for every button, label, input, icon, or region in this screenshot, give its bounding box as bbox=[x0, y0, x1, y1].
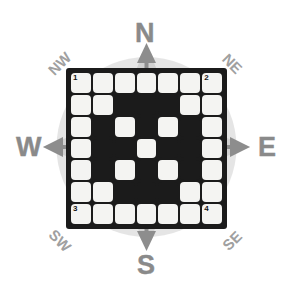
grid-cell[interactable] bbox=[71, 160, 91, 180]
grid-cell[interactable] bbox=[71, 139, 91, 159]
grid-cell[interactable] bbox=[137, 117, 157, 137]
grid-cell[interactable] bbox=[115, 117, 135, 137]
grid-cell[interactable] bbox=[202, 117, 222, 137]
grid-cell[interactable] bbox=[180, 204, 200, 224]
grid-cell[interactable] bbox=[180, 160, 200, 180]
grid-cell[interactable] bbox=[93, 204, 113, 224]
grid-cell[interactable] bbox=[137, 73, 157, 93]
grid-cell[interactable] bbox=[180, 73, 200, 93]
grid-corner-number: 4 bbox=[204, 204, 208, 214]
grid-corner-number: 1 bbox=[73, 73, 77, 83]
compass-label-west: W bbox=[16, 134, 41, 161]
grid-cell[interactable] bbox=[180, 117, 200, 137]
grid-cell[interactable]: 1 bbox=[71, 73, 91, 93]
grid-cell[interactable] bbox=[158, 95, 178, 115]
grid-cell[interactable] bbox=[202, 160, 222, 180]
compass-label-east: E bbox=[258, 134, 276, 161]
puzzle-grid: 1234 bbox=[66, 68, 227, 229]
grid-cell[interactable] bbox=[158, 182, 178, 202]
grid-cell[interactable] bbox=[115, 139, 135, 159]
grid-cell[interactable] bbox=[71, 95, 91, 115]
compass-label-north: N bbox=[135, 20, 155, 47]
grid-cell[interactable] bbox=[137, 139, 157, 159]
grid-cell[interactable] bbox=[115, 160, 135, 180]
grid-cell[interactable] bbox=[202, 182, 222, 202]
grid-cell[interactable] bbox=[180, 95, 200, 115]
grid-corner-number: 3 bbox=[73, 204, 77, 214]
grid-cell[interactable] bbox=[158, 204, 178, 224]
grid-cell[interactable] bbox=[158, 160, 178, 180]
grid-cell[interactable] bbox=[202, 95, 222, 115]
grid-cell[interactable]: 3 bbox=[71, 204, 91, 224]
grid-cell[interactable] bbox=[93, 139, 113, 159]
grid-cell[interactable] bbox=[93, 160, 113, 180]
grid-cell[interactable] bbox=[71, 182, 91, 202]
grid-cell[interactable] bbox=[137, 204, 157, 224]
grid-cell[interactable] bbox=[137, 160, 157, 180]
grid-cell[interactable] bbox=[202, 139, 222, 159]
grid-cell[interactable] bbox=[71, 117, 91, 137]
grid-cell[interactable] bbox=[158, 73, 178, 93]
grid-cell[interactable]: 4 bbox=[202, 204, 222, 224]
grid-cell[interactable] bbox=[115, 95, 135, 115]
grid-cell[interactable] bbox=[137, 182, 157, 202]
grid-cell[interactable] bbox=[93, 117, 113, 137]
grid-cell[interactable] bbox=[137, 95, 157, 115]
grid-cell[interactable] bbox=[93, 182, 113, 202]
grid-cell[interactable] bbox=[115, 204, 135, 224]
grid-cell[interactable] bbox=[180, 182, 200, 202]
grid-cell[interactable] bbox=[158, 139, 178, 159]
grid-cell[interactable] bbox=[158, 117, 178, 137]
grid-cell[interactable] bbox=[115, 73, 135, 93]
grid-cell[interactable] bbox=[115, 182, 135, 202]
compass-label-south: S bbox=[137, 252, 155, 279]
grid-cell[interactable]: 2 bbox=[202, 73, 222, 93]
compass-grid-diagram: N E S W NW NE SW SE 1234 bbox=[0, 0, 293, 294]
grid-cell[interactable] bbox=[93, 95, 113, 115]
grid-corner-number: 2 bbox=[204, 73, 208, 83]
grid-cell[interactable] bbox=[180, 139, 200, 159]
grid-cell[interactable] bbox=[93, 73, 113, 93]
